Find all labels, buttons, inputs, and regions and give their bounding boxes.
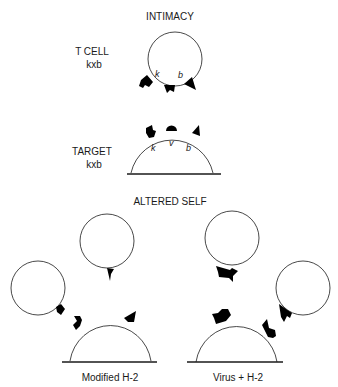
tcell-circle-top-right (205, 211, 259, 265)
target-receptor-k-icon (146, 125, 156, 138)
modified-h2-group: Modified H-2 (11, 214, 157, 383)
target-marker-v-label: v (169, 138, 174, 148)
marker-b-label: b (178, 70, 183, 80)
target-dome-modified (70, 326, 151, 361)
target-virus-icon (166, 126, 177, 132)
h2-receptor-icon (124, 311, 136, 322)
h2-virus-receptor-icon (262, 319, 276, 338)
target-receptor-b-icon (192, 125, 200, 136)
diagram-canvas: INTIMACY T CELL kxb k b TARGET kxb k v b… (0, 0, 338, 387)
tcell-genotype-label: kxb (86, 59, 102, 70)
target-genotype-label: kxb (86, 159, 102, 170)
target-marker-k-label: k (151, 143, 156, 153)
target-dome-virus (196, 327, 277, 362)
tcell-receptor-icon-top-right (216, 266, 238, 282)
marker-k-label: k (155, 69, 160, 79)
target-label: TARGET (72, 146, 112, 157)
target-marker-b-label: b (186, 143, 191, 153)
receptor-center-icon (164, 85, 175, 93)
tcell-circle-right (276, 261, 330, 315)
receptor-k-icon (139, 75, 153, 88)
tcell-intimacy: k b (139, 32, 202, 93)
section-title-intimacy: INTIMACY (146, 11, 194, 22)
tcell-receptor-icon (107, 268, 114, 281)
modified-h2-icon (73, 316, 82, 330)
section-title-altered-self: ALTERED SELF (133, 196, 206, 207)
caption-modified-h2: Modified H-2 (82, 372, 139, 383)
caption-virus-h2: Virus + H-2 (213, 372, 264, 383)
tcell-circle-top-left (80, 214, 134, 268)
virus-h2-group: Virus + H-2 (187, 211, 330, 383)
target-cell-intimacy: k v b (127, 125, 221, 174)
tcell-label: T CELL (75, 46, 109, 57)
virus-h2-complex-icon (212, 309, 231, 324)
